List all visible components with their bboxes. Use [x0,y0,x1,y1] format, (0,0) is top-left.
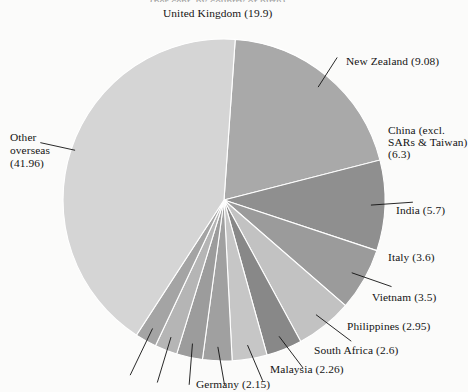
label-other-overseas-line3: (41.96) [10,157,44,170]
label-south-africa: South Africa (2.6) [314,344,398,357]
label-india: India (5.7) [396,204,445,217]
label-china-line2: SARs & Taiwan) [388,136,468,149]
label-italy: Italy (3.6) [388,251,435,264]
label-malaysia: Malaysia (2.26) [270,363,344,376]
label-germany: Germany (2.15) [196,378,270,391]
label-philippines: Philippines (2.95) [347,320,430,333]
label-other-overseas-line2: overseas [10,144,50,157]
label-vietnam: Vietnam (3.5) [372,291,437,304]
label-china-line3: (6.3) [388,148,410,161]
label-new-zealand: New Zealand (9.08) [346,55,439,68]
pie-chart-figure: (per cent, by country of birth) OCEANIA … [0,0,468,392]
pie-slice-group: United Kingdom (19.9)New Zealand (9.08)C… [63,39,385,361]
label-united-kingdom: United Kingdom (19.9) [163,7,272,20]
label-other-overseas-line1: Other [10,131,36,144]
label-china-line1: China (excl. [388,124,445,137]
